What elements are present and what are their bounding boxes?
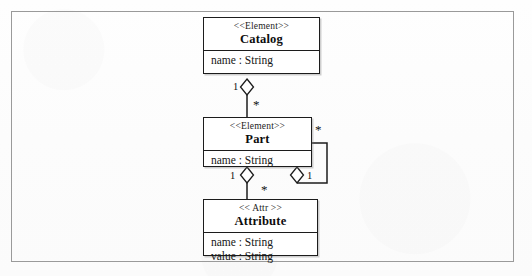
part-header: <<Element>> Part <box>204 118 311 151</box>
multiplicity-part-attr-one: 1 <box>230 171 235 181</box>
attribute-attributes: name : String value : String <box>204 233 317 267</box>
multiplicity-part-self-one: 1 <box>307 171 312 181</box>
multiplicity-part-self-many: * <box>315 125 322 135</box>
catalog-attribute-name: name : String <box>211 54 319 68</box>
uml-class-attribute[interactable]: << Attr >> Attribute name : String value… <box>203 199 318 256</box>
part-attribute-name: name : String <box>211 154 311 168</box>
attribute-stereotype: << Attr >> <box>204 203 317 214</box>
attribute-header: << Attr >> Attribute <box>204 200 317 233</box>
catalog-class-name: Catalog <box>204 32 319 46</box>
part-stereotype: <<Element>> <box>204 121 311 132</box>
attribute-attribute-name: name : String <box>211 236 317 250</box>
multiplicity-catalog-part-many: * <box>253 100 260 110</box>
uml-class-catalog[interactable]: <<Element>> Catalog name : String <box>203 17 320 74</box>
catalog-header: <<Element>> Catalog <box>204 18 319 51</box>
edge-catalog-part <box>241 79 254 117</box>
catalog-attributes: name : String <box>204 51 319 72</box>
catalog-stereotype: <<Element>> <box>204 21 319 32</box>
part-class-name: Part <box>204 132 311 146</box>
uml-class-part[interactable]: <<Element>> Part name : String <box>203 117 312 167</box>
aggregation-diamond-catalog <box>241 79 254 95</box>
part-attributes: name : String <box>204 151 311 172</box>
attribute-class-name: Attribute <box>204 214 317 228</box>
diagram-canvas: 1 * 1 * * 1 <<Element>> Catalog name : S… <box>0 0 532 276</box>
multiplicity-catalog-end: 1 <box>233 82 238 92</box>
attribute-attribute-value: value : String <box>211 250 317 264</box>
edge-part-attribute <box>241 167 254 199</box>
multiplicity-part-attr-many: * <box>261 185 268 195</box>
